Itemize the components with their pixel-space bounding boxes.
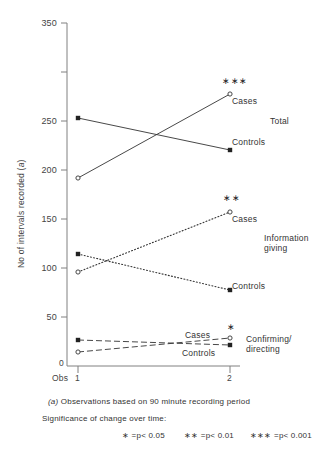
x-tick-label-2: 2 — [227, 373, 232, 383]
marker-conf-cases-obs2 — [228, 336, 232, 340]
series-label-conf-cases: Cases — [185, 330, 210, 340]
series-label-conf-controls: Controls — [182, 348, 215, 358]
figure-caption-marker: (a) — [48, 397, 58, 406]
group-label-information-giving: Informationgiving — [264, 233, 309, 253]
marker-info-cases-obs1 — [76, 270, 80, 274]
line-chart-canvas — [0, 0, 328, 452]
series-label-total-cases: Cases — [232, 96, 257, 106]
group-label-confirming-directing-line1: Confirming/ — [246, 334, 292, 344]
marker-info-controls-obs1 — [76, 252, 80, 256]
y-tick-label-350: 350 — [31, 18, 57, 28]
y-axis-title: No of intervals recorded (a) — [16, 159, 26, 268]
significance-marker-conf-cases: ∗ — [227, 322, 236, 332]
group-label-confirming-directing: Confirming/directing — [246, 334, 292, 354]
marker-total-controls-obs1 — [76, 116, 80, 120]
series-label-info-controls: Controls — [232, 281, 265, 291]
significance-marker-info-cases: ∗∗ — [223, 193, 240, 203]
marker-conf-cases-obs1 — [76, 350, 80, 354]
group-label-confirming-directing-line2: directing — [246, 344, 280, 354]
y-axis-title-prefix: No of intervals recorded ( — [16, 167, 26, 268]
significance-key-2: ∗∗ =p< 0.01 — [184, 431, 234, 440]
y-tick-label-250: 250 — [31, 116, 57, 126]
y-tick-label-100: 100 — [31, 263, 57, 273]
series-line-info-controls — [78, 254, 230, 290]
figure-caption-line: (a) Observations based on 90 minute reco… — [48, 397, 250, 406]
significance-key-1: ∗ =p< 0.05 — [122, 431, 165, 440]
y-tick-label-150: 150 — [31, 214, 57, 224]
series-line-info-cases — [78, 212, 230, 272]
axis-origin-zero: 0 — [59, 358, 64, 368]
x-tick-label-1: 1 — [75, 373, 80, 383]
marker-conf-controls-obs2 — [228, 343, 232, 347]
marker-total-cases-obs1 — [76, 176, 80, 180]
y-tick-label-50: 50 — [31, 312, 57, 322]
marker-conf-controls-obs1 — [76, 338, 80, 342]
y-tick-label-200: 200 — [31, 165, 57, 175]
series-line-total-controls — [78, 118, 230, 150]
y-axis-title-suffix: ) — [16, 159, 26, 162]
group-label-information-giving-line2: giving — [264, 243, 287, 253]
series-label-total-controls: Controls — [232, 137, 265, 147]
series-label-info-cases: Cases — [232, 214, 257, 224]
series-line-total-cases — [78, 94, 230, 178]
significance-key-3: ∗∗∗ =p< 0.001 — [250, 431, 312, 440]
y-axis-title-italic: a — [16, 162, 26, 167]
figure-container: 350 250 200 150 100 50 No of intervals r… — [0, 0, 328, 452]
series-line-conf-controls — [78, 340, 230, 345]
marker-total-controls-obs2 — [228, 148, 232, 152]
group-label-information-giving-line1: Information — [264, 233, 309, 243]
figure-caption-text: Observations based on 90 minute recordin… — [58, 397, 250, 406]
x-axis-prefix-label: Obs — [52, 373, 68, 383]
significance-heading: Significance of change over time: — [42, 414, 166, 423]
significance-marker-total-cases: ∗∗∗ — [222, 76, 248, 86]
group-label-total: Total — [270, 116, 289, 126]
